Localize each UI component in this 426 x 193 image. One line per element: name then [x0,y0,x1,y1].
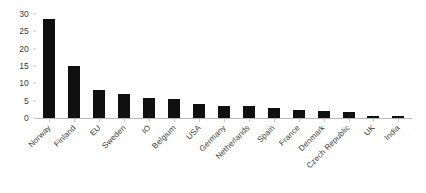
y-axis: 051015202530 [0,0,37,193]
bar-slot[interactable] [336,14,361,118]
y-tick-label: 25 [19,27,29,36]
bar[interactable] [193,104,205,118]
y-tick-mark [33,31,36,32]
x-label-slot: Czech Republic [336,122,361,193]
bar[interactable] [243,106,255,118]
bar[interactable] [218,106,230,118]
bar[interactable] [43,19,55,118]
bar[interactable] [118,94,130,118]
y-tick-mark [33,14,36,15]
x-label-slot: USA [187,122,212,193]
x-label-slot: Belgium [162,122,187,193]
x-axis-category-label: UK [363,124,377,138]
bar[interactable] [268,108,280,118]
bar-slot[interactable] [62,14,87,118]
bar-slot[interactable] [162,14,187,118]
bar[interactable] [367,116,379,118]
y-tick-mark [33,66,36,67]
y-tick-mark [33,100,36,101]
x-label-slot: India [386,122,411,193]
x-label-slot: Finland [62,122,87,193]
bar-slot[interactable] [112,14,137,118]
y-tick-label: 20 [19,44,29,53]
x-label-slot: Sweden [112,122,137,193]
x-label-slot: IO [137,122,162,193]
bar-chart-figure: 051015202530 NorwayFinlandEUSwedenIOBelg… [0,0,426,193]
x-label-slot: UK [361,122,386,193]
bar[interactable] [168,99,180,118]
y-tick-mark [33,83,36,84]
bar-series [37,14,411,118]
x-label-slot: EU [87,122,112,193]
y-tick-label: 5 [24,96,29,105]
bar-slot[interactable] [236,14,261,118]
x-label-slot: Norway [37,122,62,193]
y-tick-label: 0 [24,114,29,123]
y-tick-mark [33,48,36,49]
x-axis-category-label: India [383,124,402,143]
bar[interactable] [293,110,305,118]
bar[interactable] [343,112,355,118]
bar-slot[interactable] [386,14,411,118]
bar-slot[interactable] [361,14,386,118]
bar-slot[interactable] [311,14,336,118]
bar[interactable] [143,98,155,118]
x-axis-category-label: IO [141,124,153,136]
bar-slot[interactable] [37,14,62,118]
bar-slot[interactable] [211,14,236,118]
y-tick-label: 30 [19,10,29,19]
x-axis-category-label: USA [185,124,203,142]
plot-area [37,14,411,118]
bar[interactable] [318,111,330,118]
bar-slot[interactable] [261,14,286,118]
x-label-slot: Spain [261,122,286,193]
bar[interactable] [392,116,404,118]
x-axis-category-label: EU [89,124,103,138]
bar-slot[interactable] [187,14,212,118]
y-tick-label: 15 [19,62,29,71]
y-tick-label: 10 [19,79,29,88]
x-label-slot: France [286,122,311,193]
bar-slot[interactable] [137,14,162,118]
bar[interactable] [93,90,105,118]
bar-slot[interactable] [286,14,311,118]
x-label-slot: Netherlands [236,122,261,193]
x-axis-labels: NorwayFinlandEUSwedenIOBelgiumUSAGermany… [37,122,411,193]
bar-slot[interactable] [87,14,112,118]
bar[interactable] [68,66,80,118]
